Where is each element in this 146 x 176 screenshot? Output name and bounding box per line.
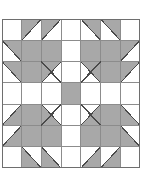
- patch-r3c2-gray: [22, 62, 42, 84]
- quilt-diagram-stage: [0, 0, 146, 176]
- patch-r6c3-gray: [41, 125, 61, 147]
- patch-r2c4-base: [61, 40, 81, 62]
- patch-r4c7-base: [120, 83, 140, 105]
- patch-r4c1-base: [2, 83, 22, 105]
- patch-r3c4-base: [61, 62, 81, 84]
- patch-r5c2-gray: [22, 104, 42, 126]
- patch-r4c6-base: [101, 83, 121, 105]
- patch-r5c4-base: [61, 104, 81, 126]
- patch-r6c2-gray: [22, 125, 42, 147]
- quilt-block-svg: [0, 0, 146, 176]
- patch-r2c3-gray: [41, 40, 61, 62]
- patch-r7c1-base: [2, 147, 22, 169]
- patch-r2c6-gray: [101, 40, 121, 62]
- patch-r3c6-gray: [101, 62, 121, 84]
- center-gray-square: [61, 83, 81, 104]
- patch-r7c7-base: [120, 147, 140, 169]
- patch-r4c2-base: [22, 83, 42, 105]
- patch-r6c6-gray: [101, 125, 121, 147]
- patch-r5c6-gray: [101, 104, 121, 126]
- patch-r1c4-base: [61, 19, 81, 41]
- patch-r1c1-base: [2, 19, 22, 41]
- patch-r2c2-gray: [22, 40, 42, 62]
- patch-r7c4-base: [61, 147, 81, 169]
- patch-r4c5-base: [81, 83, 101, 105]
- patch-r4c3-base: [41, 83, 61, 105]
- patch-r6c5-gray: [81, 125, 101, 147]
- patch-r1c7-base: [120, 19, 140, 41]
- patch-r6c4-base: [61, 125, 81, 147]
- patch-r2c5-gray: [81, 40, 101, 62]
